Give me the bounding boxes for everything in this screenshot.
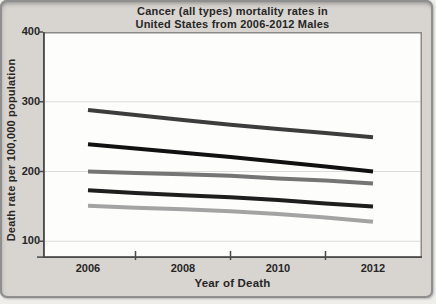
y-tick-label-400: 400 [0,25,40,38]
x-tick-label-2010: 2010 [254,262,302,275]
chart-card: Cancer (all types) mortality rates in Un… [0,0,433,298]
x-tick-label-2006: 2006 [64,262,112,275]
line-2-black [88,144,373,171]
x-tick-label-2012: 2012 [349,262,397,275]
line-5-light-gray [88,206,373,222]
plot-area [43,32,422,258]
line-4-black [88,190,373,206]
y-axis-label: Death rate per 100,000 population [5,59,17,242]
line-3-medium-gray [88,172,373,184]
line-1-dark-gray [88,110,373,137]
y-tick-label-100: 100 [0,234,40,247]
chart-title-line-2: United States from 2006-2012 Males [43,18,422,31]
chart-title-line-1: Cancer (all types) mortality rates in [43,5,422,18]
x-axis-label: Year of Death [43,277,422,289]
x-tick-label-2008: 2008 [159,262,207,275]
chart-title: Cancer (all types) mortality rates in Un… [43,5,422,31]
line-chart-svg [43,32,422,258]
y-tick-label-200: 200 [0,165,40,178]
y-tick-label-300: 300 [0,95,40,108]
